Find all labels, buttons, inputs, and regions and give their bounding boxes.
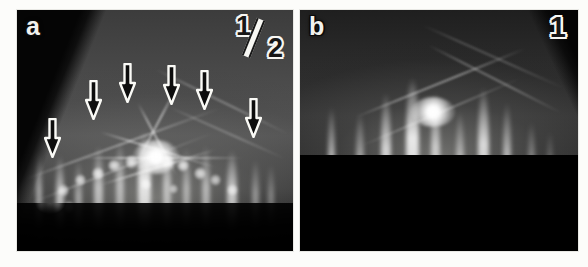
panel-a[interactable]: a 1 2 — [17, 10, 293, 251]
order-label-a: 1 2 — [233, 12, 285, 64]
order-denominator-a: 2 — [268, 35, 283, 62]
panel-b[interactable]: b 1 — [300, 10, 578, 251]
shadow-edge-a — [17, 203, 293, 251]
annotation-arrow-5 — [196, 70, 213, 110]
annotation-arrow-3 — [119, 63, 136, 103]
panel-letter-a: a — [26, 14, 40, 39]
figure-container: a 1 2 — [0, 0, 588, 267]
panel-letter-b: b — [309, 14, 324, 39]
annotation-arrow-4 — [163, 65, 180, 105]
annotation-arrow-1 — [44, 118, 61, 158]
annotation-arrow-6 — [245, 98, 262, 138]
shadow-edge-b — [300, 155, 578, 251]
order-label-b: 1 — [550, 13, 566, 42]
annotation-arrow-2 — [85, 80, 102, 120]
